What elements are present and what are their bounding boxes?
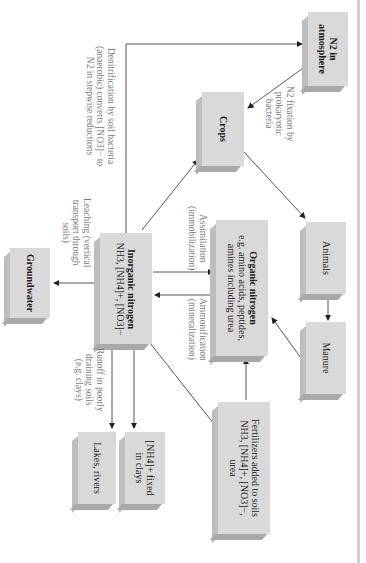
- fert-line3: urea: [228, 459, 239, 476]
- label-denitrification: Denitrification by soil bacteria (anaero…: [85, 46, 117, 166]
- node-manure: Manure: [306, 322, 346, 394]
- inorganic-formula: NH3, [NH4]+, [NO3]−: [115, 242, 126, 335]
- nh4-line1: [NH4]+ fixed: [145, 441, 156, 496]
- organic-line2: amines including urea: [226, 244, 237, 332]
- label-ammonification: Ammonification (mineralization): [187, 298, 208, 361]
- groundwater-label: Groundwater: [25, 254, 36, 312]
- label-n2-fixation: N2 fixation by prokaryotic bacteria: [264, 86, 296, 141]
- node-crops: Crops: [202, 92, 244, 166]
- organic-line1: e.g. amino acids, peptides,: [237, 235, 248, 341]
- label-leaching: Leaching (vertical transport through soi…: [61, 198, 93, 267]
- arrow-crops-to-animals: [244, 152, 305, 218]
- n2-line2: atmosphere: [317, 24, 328, 74]
- crops-label: Crops: [218, 116, 229, 142]
- label-assimilation: Assimilation (immobilization): [187, 206, 208, 270]
- manure-label: Manure: [321, 342, 332, 373]
- node-nh4-fixed-clays: [NH4]+ fixed in clays: [125, 432, 165, 504]
- n2-line1: N2 in: [328, 37, 339, 60]
- lakes-label: Lakes, rivers: [92, 442, 103, 494]
- inorganic-title: Inorganic nitrogen: [126, 248, 137, 328]
- node-fertilizers: Fertilizers added to soils NH3, [NH4]+, …: [218, 402, 270, 534]
- node-organic-nitrogen: Organic nitrogen e.g. amino acids, pepti…: [216, 220, 268, 356]
- label-runoff: Runoff in poorly draining soils (e.g. cl…: [74, 348, 106, 412]
- node-animals: Animals: [306, 222, 346, 294]
- fert-line1: Fertilizers added to soils: [250, 419, 261, 517]
- animals-label: Animals: [321, 241, 332, 275]
- fert-line2: NH3, [NH4]+, [NO3]−,: [239, 420, 250, 515]
- node-lakes-rivers: Lakes, rivers: [78, 432, 116, 504]
- node-n2-atmosphere: N2 in atmosphere: [308, 12, 348, 86]
- organic-title: Organic nitrogen: [248, 251, 259, 324]
- node-inorganic-nitrogen: Inorganic nitrogen NH3, [NH4]+, [NO3]−: [100, 233, 152, 344]
- nh4-line2: in clays: [134, 453, 145, 484]
- node-groundwater: Groundwater: [10, 248, 50, 318]
- nitrogen-cycle-diagram: N2 in atmosphere Crops Animals Manure Or…: [0, 0, 366, 563]
